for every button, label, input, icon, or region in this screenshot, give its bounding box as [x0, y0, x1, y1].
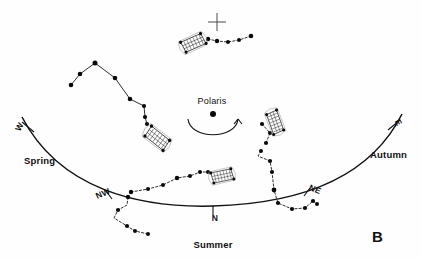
dipper-right-bowl [263, 106, 286, 138]
horizon-arc-group [22, 114, 402, 215]
zenith-cross-icon [208, 13, 226, 31]
star-chain-ne [258, 149, 319, 211]
big-dipper-top [177, 30, 254, 56]
star-chain-ne-stars [259, 149, 319, 211]
season-label-summer: Summer [193, 239, 232, 250]
polaris-label: Polaris [198, 96, 227, 106]
dipper-left-bowl [140, 122, 174, 155]
direction-label-nw: NW [94, 185, 112, 200]
big-dipper-bottom [129, 166, 237, 194]
dipper-left-handle-line [71, 63, 147, 124]
star-chain-ne-line [258, 151, 317, 209]
dipper-bottom-handle-line [131, 172, 208, 192]
big-dipper-right [260, 106, 287, 145]
dipper-top-handle-stars [206, 34, 254, 44]
dipper-left-handle-stars [69, 61, 149, 127]
season-label-autumn: Autumn [370, 149, 407, 160]
star-chain-nw-line [114, 197, 148, 234]
star-chart-diagram: Polaris W NW N NE E Spring Summer Autumn… [0, 0, 422, 260]
panel-label-b: B [372, 228, 383, 245]
dipper-bottom-bowl [207, 166, 236, 185]
rotation-arrow-arc [188, 119, 238, 135]
polaris-group: Polaris [188, 96, 242, 135]
direction-label-ne: NE [307, 182, 322, 196]
season-labels: Spring Summer Autumn [24, 149, 407, 250]
season-label-spring: Spring [24, 155, 55, 166]
big-dipper-left [69, 61, 174, 155]
direction-label-n: N [212, 213, 218, 223]
horizon-arc [22, 114, 402, 206]
polaris-star [210, 111, 216, 117]
figure-root: Polaris W NW N NE E Spring Summer Autumn… [0, 0, 422, 260]
dipper-top-bowl [177, 30, 210, 56]
